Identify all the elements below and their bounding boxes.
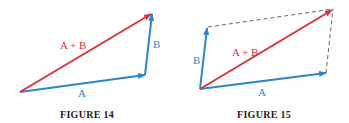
vector-sum-arrow [20,14,151,92]
label-a: A [78,87,86,99]
label-sum: A + B [232,46,258,58]
figure-14: A B A + B FIGURE 14 [20,14,160,120]
dashed-right-edge [326,9,333,73]
label-a: A [258,86,266,98]
label-b: B [193,54,200,66]
dashed-top-edge [208,9,333,27]
figure-15-caption: FIGURE 15 [237,109,291,120]
figure-15: A B A + B FIGURE 15 [193,9,333,120]
label-sum: A + B [60,39,86,51]
vector-b-arrow [200,28,207,89]
vector-addition-diagrams: A B A + B FIGURE 14 A B A + B FIGURE 15 [0,0,349,123]
vector-b-arrow [145,14,152,75]
figure-14-caption: FIGURE 14 [60,109,114,120]
vector-sum-arrow [200,10,332,89]
label-b: B [153,38,160,50]
